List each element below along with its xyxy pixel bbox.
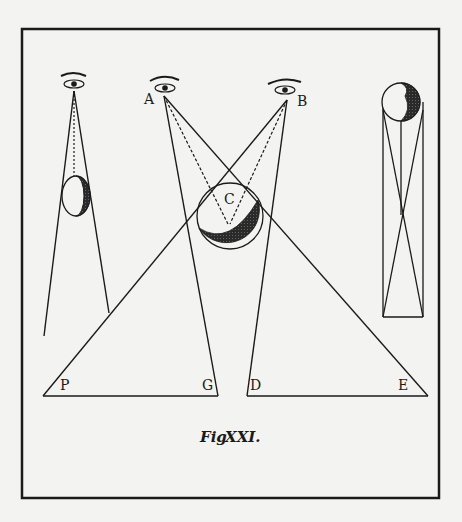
right-sphere-icon (382, 83, 420, 121)
left-crescent-moon-icon (62, 176, 90, 216)
eye-a-icon (150, 77, 179, 92)
eye-b-icon (268, 79, 301, 94)
label-a: A (143, 91, 155, 107)
left-eye-icon (61, 73, 86, 88)
caption-fig: Fig (199, 428, 227, 446)
sight-lines-b (43, 100, 287, 396)
figure-plate: A B C P G D E Fig XXI. (0, 0, 462, 522)
label-p: P (60, 377, 69, 393)
figure-caption: Fig XXI. (199, 428, 261, 446)
label-d: D (250, 377, 261, 393)
label-c: C (224, 191, 235, 207)
label-g: G (202, 377, 213, 393)
label-b: B (297, 93, 307, 109)
caption-number: XXI. (224, 428, 261, 446)
label-e: E (398, 377, 408, 393)
right-column-lines (383, 102, 423, 317)
